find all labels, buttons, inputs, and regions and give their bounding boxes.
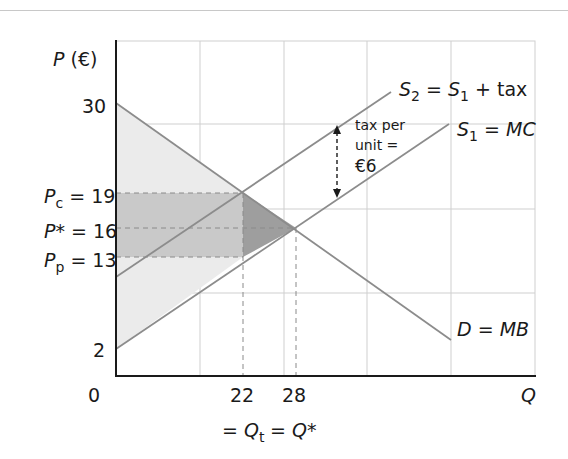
y-axis-label: P (€) — [53, 48, 97, 70]
shaded-regions — [116, 103, 296, 349]
tax-annotation-line2: unit = — [355, 137, 398, 153]
tax-annotation-line3: €6 — [355, 156, 377, 176]
arrow-down-icon — [333, 189, 341, 198]
qstar-label: = Q* — [270, 419, 316, 441]
s1-label: S1 = MC — [457, 118, 536, 144]
demand-label: D = MB — [457, 318, 529, 340]
x-axis-label: Q — [521, 384, 536, 406]
x-tick-22: 22 — [230, 384, 254, 406]
tax-incidence-chart: P (€) 30 Pc = 19 P* = 16 Pp = 13 2 0 22 … — [0, 0, 568, 459]
y-tick-30: 30 — [82, 95, 106, 117]
y-tick-pstar: P* = 16 — [44, 220, 117, 242]
qt-label: = Qt — [222, 419, 265, 445]
y-tick-pp: Pp = 13 — [44, 249, 117, 275]
y-tick-pc: Pc = 19 — [44, 185, 115, 211]
y-tick-2: 2 — [93, 339, 105, 361]
x-tick-28: 28 — [282, 384, 306, 406]
tax-arrow — [333, 125, 341, 198]
tax-annotation-line1: tax per — [355, 117, 405, 133]
x-tick-0: 0 — [88, 384, 100, 406]
s2-label: S2 = S1 + tax — [399, 78, 527, 104]
tax-revenue-area — [116, 193, 243, 257]
